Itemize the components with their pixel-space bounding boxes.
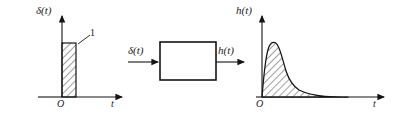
left-plot-origin-label: O xyxy=(57,99,64,109)
left-plot-axes xyxy=(38,16,122,97)
block-output-label: h(t) xyxy=(218,45,234,56)
right-plot-y-axis-label: h(t) xyxy=(236,5,252,16)
figure-container: δ(t) 1 O t δ(t) h(t) h(t) O t xyxy=(0,0,393,120)
impulse-amplitude-label: 1 xyxy=(90,28,95,38)
block-input-label: δ(t) xyxy=(128,45,144,56)
left-plot-x-axis-label: t xyxy=(111,99,114,109)
right-plot-origin-label: O xyxy=(256,99,263,109)
amplitude-leader-line xyxy=(78,35,90,44)
left-plot-y-axis-label: δ(t) xyxy=(36,5,52,16)
impulse-response-curve xyxy=(262,42,348,97)
impulse-bar xyxy=(62,43,76,97)
right-plot-x-axis-label: t xyxy=(373,99,376,109)
